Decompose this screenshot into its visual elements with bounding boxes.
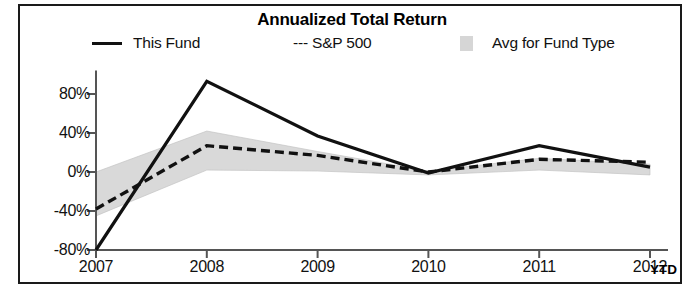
x-axis-tick-label: 2011 bbox=[523, 258, 556, 276]
x-axis-tick-label: 2010 bbox=[411, 258, 445, 276]
chart-frame: Annualized Total Return This Fund --- S&… bbox=[18, 4, 682, 284]
chart-plot-svg bbox=[20, 6, 684, 286]
avg-fund-type-band bbox=[96, 131, 650, 216]
x-axis-tick-label: 2007 bbox=[79, 258, 113, 276]
x-axis-tick-label: 2008 bbox=[190, 258, 224, 276]
y-axis-tick-label: -40% bbox=[26, 202, 90, 220]
y-axis-tick-label: 40% bbox=[26, 124, 90, 142]
x-axis-ytd-label: YTD bbox=[650, 262, 677, 277]
x-axis-tick-label: 2009 bbox=[300, 258, 334, 276]
y-axis-tick-labels: 80%40%0%-40%-80% bbox=[20, 6, 90, 286]
y-axis-tick-label: 0% bbox=[26, 163, 90, 181]
y-axis-tick-label: -80% bbox=[26, 241, 90, 259]
y-axis-tick-label: 80% bbox=[26, 85, 90, 103]
plot-area: 80%40%0%-40%-80% 20072008200920102011201… bbox=[20, 6, 684, 286]
